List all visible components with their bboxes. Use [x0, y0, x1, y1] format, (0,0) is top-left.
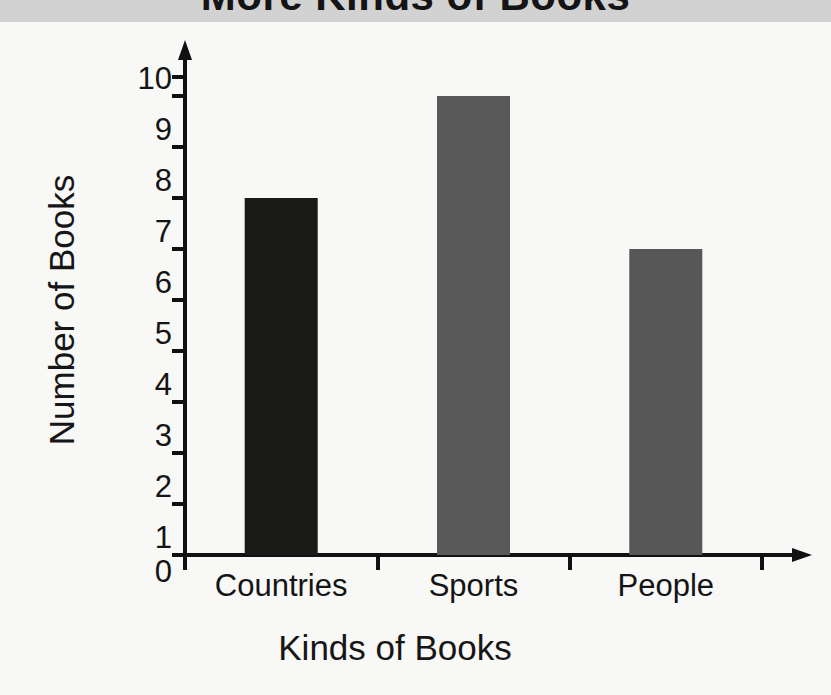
- bars-group: [245, 96, 703, 555]
- bar-people: [629, 249, 702, 555]
- y-tick-label-2: 2: [112, 471, 172, 502]
- x-tick-label-countries: Countries: [185, 566, 377, 610]
- y-tick-label-4: 4: [112, 369, 172, 400]
- y-axis-arrowhead: [178, 40, 192, 60]
- y-tick-label-group: 10 9 8 7 6 5 4 3 2 1 0: [110, 0, 172, 695]
- plot-area: 10 9 8 7 6 5 4 3 2 1 0 Countries Sports …: [0, 0, 831, 695]
- bar-countries: [245, 198, 318, 555]
- y-tick-label-8: 8: [112, 165, 172, 196]
- bar-sports: [437, 96, 510, 555]
- x-tick-label-sports: Sports: [377, 566, 569, 610]
- y-tick-label-5: 5: [112, 318, 172, 349]
- y-tick-label-1: 1: [112, 522, 172, 553]
- x-tick-label-people: People: [570, 566, 762, 610]
- x-axis-arrowhead: [792, 548, 812, 562]
- y-tick-label-3: 3: [112, 420, 172, 451]
- x-axis-title: Kinds of Books: [0, 628, 790, 668]
- y-tick-label-7: 7: [112, 216, 172, 247]
- y-tick-label-6: 6: [112, 267, 172, 298]
- y-axis-title: Number of Books: [42, 100, 82, 520]
- y-tick-label-9: 9: [112, 114, 172, 145]
- x-tick-label-group: Countries Sports People: [185, 566, 762, 610]
- y-tick-label-10: 10: [112, 63, 172, 94]
- chart-page: More Kinds of Books: [0, 0, 831, 695]
- y-tick-label-0: 0: [112, 556, 172, 587]
